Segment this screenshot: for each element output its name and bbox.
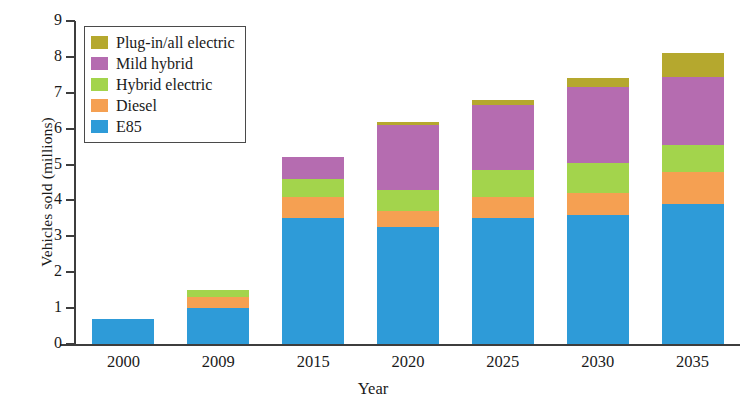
y-axis-tick <box>66 164 75 166</box>
bar-segment[interactable] <box>567 87 629 162</box>
legend-swatch-icon <box>91 120 108 133</box>
x-axis-tick-label: 2000 <box>78 352 168 372</box>
bar-segment[interactable] <box>662 172 724 204</box>
y-axis-tick-label-wrap: 8 <box>0 48 62 64</box>
legend-item-label: Hybrid electric <box>116 77 212 93</box>
bar-stack[interactable] <box>472 100 534 344</box>
bar-segment[interactable] <box>187 308 249 344</box>
y-axis-tick <box>66 199 75 201</box>
y-axis-tick <box>66 307 75 309</box>
bar-segment[interactable] <box>472 218 534 344</box>
bar-segment[interactable] <box>567 193 629 215</box>
legend-item-label: Diesel <box>116 98 157 114</box>
legend-item[interactable]: Hybrid electric <box>91 74 235 95</box>
legend-item[interactable]: Mild hybrid <box>91 53 235 74</box>
bar-stack[interactable] <box>567 78 629 344</box>
x-axis-line <box>60 344 740 346</box>
bar-segment[interactable] <box>377 190 439 212</box>
y-axis-tick <box>66 20 75 22</box>
y-axis-tick-label-wrap: 5 <box>0 156 62 172</box>
y-axis-tick-label: 2 <box>22 263 62 279</box>
y-axis-tick-label-wrap: 7 <box>0 84 62 100</box>
bar-segment[interactable] <box>567 78 629 87</box>
y-axis-tick-label: 7 <box>22 84 62 100</box>
legend-swatch-icon <box>91 57 108 70</box>
legend-item-label: Plug-in/all electric <box>116 35 235 51</box>
y-axis-tick-label: 0 <box>22 335 62 351</box>
bar-segment[interactable] <box>662 145 724 172</box>
bar-segment[interactable] <box>472 197 534 219</box>
legend-swatch-icon <box>91 99 108 112</box>
bar-segment[interactable] <box>377 125 439 190</box>
y-axis-tick-label-wrap: 2 <box>0 263 62 279</box>
bar-stack[interactable] <box>92 319 154 344</box>
bar-stack[interactable] <box>187 290 249 344</box>
bar-stack[interactable] <box>662 53 724 344</box>
bar-stack[interactable] <box>282 157 344 344</box>
x-axis-tick-label: 2020 <box>363 352 453 372</box>
legend-item-label: E85 <box>116 119 142 135</box>
bar-segment[interactable] <box>662 77 724 145</box>
x-axis-tick-label: 2009 <box>173 352 263 372</box>
bar-segment[interactable] <box>377 227 439 344</box>
bar-stack[interactable] <box>377 122 439 344</box>
bar-segment[interactable] <box>282 157 344 179</box>
y-axis-tick-label-wrap: 6 <box>0 120 62 136</box>
bar-segment[interactable] <box>282 197 344 219</box>
y-axis-tick-label: 3 <box>22 227 62 243</box>
bar-segment[interactable] <box>472 170 534 197</box>
legend-item[interactable]: E85 <box>91 116 235 137</box>
legend-swatch-icon <box>91 78 108 91</box>
y-axis-tick-label-wrap: 4 <box>0 191 62 207</box>
y-axis-tick <box>66 128 75 130</box>
bar-segment[interactable] <box>187 290 249 297</box>
chart-legend: Plug-in/all electricMild hybridHybrid el… <box>84 26 246 143</box>
bar-segment[interactable] <box>282 179 344 197</box>
bar-segment[interactable] <box>662 53 724 76</box>
x-axis-tick-label: 2025 <box>458 352 548 372</box>
y-axis-tick-label: 9 <box>22 12 62 28</box>
legend-swatch-icon <box>91 36 108 49</box>
bar-segment[interactable] <box>377 211 439 227</box>
x-axis-tick-label: 2015 <box>268 352 358 372</box>
y-axis-tick <box>66 271 75 273</box>
bar-segment[interactable] <box>567 215 629 344</box>
y-axis-tick <box>66 56 75 58</box>
y-axis-tick <box>66 343 75 345</box>
bar-segment[interactable] <box>282 218 344 344</box>
bar-segment[interactable] <box>662 204 724 344</box>
y-axis-tick-label: 1 <box>22 299 62 315</box>
legend-item[interactable]: Plug-in/all electric <box>91 32 235 53</box>
y-axis-tick-label: 8 <box>22 48 62 64</box>
bar-segment[interactable] <box>187 297 249 308</box>
y-axis-tick-label-wrap: 0 <box>0 335 62 351</box>
y-axis-tick <box>66 92 75 94</box>
x-axis-title: Year <box>0 379 746 399</box>
legend-item[interactable]: Diesel <box>91 95 235 116</box>
x-axis-tick-label: 2035 <box>648 352 738 372</box>
y-axis-tick-label-wrap: 1 <box>0 299 62 315</box>
y-axis-tick-label-wrap: 3 <box>0 227 62 243</box>
bar-segment[interactable] <box>92 319 154 344</box>
y-axis-tick-label: 4 <box>22 191 62 207</box>
y-axis-tick-label: 5 <box>22 156 62 172</box>
legend-item-label: Mild hybrid <box>116 56 193 72</box>
x-axis-tick-label: 2030 <box>553 352 643 372</box>
y-axis-tick-label-wrap: 9 <box>0 12 62 28</box>
y-axis-tick-label: 6 <box>22 120 62 136</box>
y-axis-tick <box>66 235 75 237</box>
bar-segment[interactable] <box>567 163 629 194</box>
stacked-bar-chart: Vehicles sold (millions) 0123456789 2000… <box>0 0 746 417</box>
bar-segment[interactable] <box>472 105 534 170</box>
